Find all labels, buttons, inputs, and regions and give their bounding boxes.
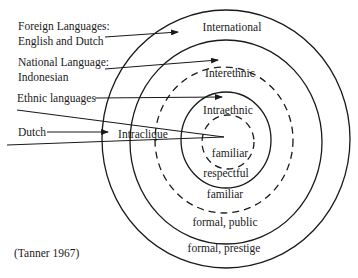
label-foreign-languages: Foreign Languages: English and Dutch	[18, 20, 113, 48]
register-formal-public: formal, public	[192, 216, 257, 229]
register-formal-prestige: formal, prestige	[188, 242, 261, 255]
domain-interethnic: Interethnic	[205, 67, 255, 79]
arrow-foreign-languages	[105, 32, 178, 37]
domain-intraclique: Intraclique	[118, 128, 168, 141]
register-middle-familiar: familiar	[207, 188, 244, 200]
register-respectful: respectful	[203, 167, 248, 180]
ring-intraclique	[202, 115, 254, 169]
register-inner-familiar: familiar	[212, 147, 249, 159]
domain-international: International	[203, 21, 262, 33]
intraclique-wedge-lower	[7, 137, 224, 145]
arrow-national-language	[105, 60, 218, 69]
label-dutch: Dutch	[18, 126, 46, 138]
citation: (Tanner 1967)	[14, 247, 79, 260]
arrow-ethnic-languages	[95, 97, 222, 98]
label-national-language: National Language: Indonesian	[18, 56, 112, 83]
label-ethnic-languages: Ethnic languages	[17, 92, 96, 105]
domain-intraethnic: Intraethnic	[203, 104, 253, 116]
concentric-language-domains-diagram: Foreign Languages: English and Dutch Nat…	[0, 0, 358, 278]
